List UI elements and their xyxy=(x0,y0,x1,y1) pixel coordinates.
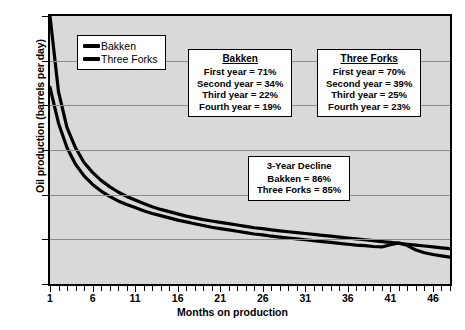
annotation-line: Third year = 22% xyxy=(197,89,283,101)
x-tick-mark xyxy=(84,286,85,291)
x-tick-mark xyxy=(280,286,281,291)
x-tick-label: 41 xyxy=(375,292,405,304)
annotation-box-three-forks: Three Forks First year = 70% Second year… xyxy=(317,49,421,117)
x-tick-mark xyxy=(271,286,272,291)
x-tick-mark xyxy=(288,286,289,291)
x-tick-mark xyxy=(203,286,204,291)
x-tick-mark xyxy=(169,286,170,291)
annotation-header: Bakken xyxy=(197,53,283,64)
annotation-header: Three Forks xyxy=(326,53,412,64)
x-tick-mark xyxy=(110,286,111,291)
y-axis-title: Oil production (barrels per day) xyxy=(34,16,46,216)
annotation-line: First year = 71% xyxy=(197,66,283,78)
x-tick-mark xyxy=(416,286,417,291)
x-tick-mark xyxy=(229,286,230,291)
x-tick-mark xyxy=(76,286,77,291)
annotation-line: Fourth year = 23% xyxy=(326,101,412,113)
annotation-line: First year = 70% xyxy=(326,66,412,78)
gridline xyxy=(50,239,450,240)
annotation-line: Bakken = 86% xyxy=(257,173,341,185)
x-tick-mark xyxy=(424,286,425,291)
annotation-line: Third year = 25% xyxy=(326,89,412,101)
x-tick-mark xyxy=(314,286,315,291)
x-tick-mark xyxy=(407,286,408,291)
x-tick-label: 6 xyxy=(78,292,108,304)
annotation-line: Second year = 34% xyxy=(197,78,283,90)
x-tick-mark xyxy=(399,286,400,291)
legend-item-three-forks: Three Forks xyxy=(83,52,158,65)
x-tick-mark xyxy=(152,286,153,291)
legend-swatch-icon xyxy=(83,44,100,48)
x-tick-label: 21 xyxy=(205,292,235,304)
annotation-line: Three Forks = 85% xyxy=(257,184,341,196)
x-tick-mark xyxy=(195,286,196,291)
x-tick-mark xyxy=(441,286,442,291)
x-tick-mark xyxy=(118,286,119,291)
x-tick-mark xyxy=(212,286,213,291)
x-tick-mark xyxy=(450,286,451,291)
x-tick-label: 16 xyxy=(163,292,193,304)
x-tick-mark xyxy=(365,286,366,291)
x-axis-title: Months on production xyxy=(0,306,465,318)
annotation-box-bakken: Bakken First year = 71% Second year = 34… xyxy=(188,49,292,117)
x-tick-mark xyxy=(127,286,128,291)
annotation-box-three-year-decline: 3-Year Decline Bakken = 86% Three Forks … xyxy=(248,156,350,201)
x-tick-mark xyxy=(101,286,102,291)
x-tick-mark xyxy=(246,286,247,291)
x-tick-mark xyxy=(322,286,323,291)
x-tick-mark xyxy=(144,286,145,291)
x-tick-mark xyxy=(356,286,357,291)
x-tick-label: 11 xyxy=(120,292,150,304)
legend-label: Bakken xyxy=(101,40,136,52)
annotation-header: 3-Year Decline xyxy=(257,160,341,172)
x-tick-mark xyxy=(161,286,162,291)
x-tick-label: 26 xyxy=(248,292,278,304)
x-tick-mark xyxy=(297,286,298,291)
annotation-line: Fourth year = 19% xyxy=(197,101,283,113)
x-tick-mark xyxy=(331,286,332,291)
x-tick-mark xyxy=(382,286,383,291)
x-tick-mark xyxy=(254,286,255,291)
x-tick-label: 1 xyxy=(35,292,65,304)
x-tick-mark xyxy=(59,286,60,291)
x-tick-mark xyxy=(186,286,187,291)
gridline xyxy=(50,150,450,151)
x-tick-mark xyxy=(237,286,238,291)
x-tick-mark xyxy=(373,286,374,291)
x-tick-mark xyxy=(339,286,340,291)
x-tick-mark xyxy=(67,286,68,291)
legend-label: Three Forks xyxy=(101,53,158,65)
x-tick-label: 46 xyxy=(418,292,448,304)
chart-legend: Bakken Three Forks xyxy=(77,35,166,70)
annotation-line: Second year = 39% xyxy=(326,78,412,90)
chart-figure: Oil production (barrels per day) 0100200… xyxy=(0,0,465,330)
legend-swatch-icon xyxy=(83,57,100,61)
x-tick-label: 36 xyxy=(333,292,363,304)
legend-item-bakken: Bakken xyxy=(83,39,158,52)
x-tick-label: 31 xyxy=(290,292,320,304)
